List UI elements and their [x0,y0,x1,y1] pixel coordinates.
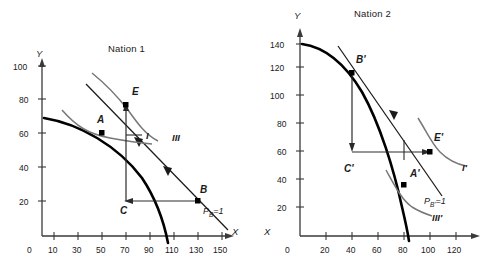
y-axis-arrow-2 [297,28,303,37]
point-label-A: A [97,114,104,125]
x-tick-label-90: 90 [144,245,153,255]
point-label-E-prime: E' [434,132,443,143]
x2-tick-label-20: 20 [320,245,329,255]
x2-tick-label-100: 100 [421,245,435,255]
trade-arrow-horizontal-head [124,198,133,204]
curve-label-III: III [172,132,180,143]
y-tick-label-20: 20 [19,197,28,207]
y-tick-label-60: 60 [19,129,28,139]
y2-tick-label-80: 80 [277,119,286,129]
x-tick-label-0: 0 [27,245,32,255]
y-tick-label-40: 40 [19,163,28,173]
panel-nation-1: Nation 1 [0,0,246,269]
x2-tick-label-120: 120 [447,245,461,255]
x-tick-label-110: 110 [165,245,179,255]
x-tick-label-70: 70 [120,245,129,255]
y-tick-label-80: 80 [19,95,28,105]
point-marker-A-prime [401,182,407,188]
y2-tick-label-140: 140 [270,40,284,50]
point-label-C: C [120,205,127,216]
curve-label-I: I [146,130,149,141]
x-axis-arrow-2 [471,233,480,239]
nation-1-plot [0,0,246,269]
y2-tick-label-40: 40 [277,175,286,185]
y2-tick-label-100: 100 [270,91,284,101]
point-label-C-prime: C' [344,163,354,174]
point-marker-E [123,102,129,108]
y-axis-title-nation-2: Y [294,10,300,21]
point-label-B: B [200,184,207,195]
price-label-nation-1: PB=1 [203,206,224,218]
price2-label-eq: =1 [436,196,446,206]
indifference-curve-I-prime [386,170,432,216]
x-tick-label-50: 50 [96,245,105,255]
y-axis-title-nation-1: Y [36,48,42,59]
y-tick-label-100: 100 [13,62,27,72]
ppf-curve-nation-2 [302,44,409,241]
point-marker-E-prime [427,149,433,155]
y2-tick-label-20: 20 [277,203,286,213]
y2-tick-label-60: 60 [277,147,286,157]
curve-label-I-prime: I' [462,162,467,173]
x-tick-label-150: 150 [213,245,227,255]
x2-tick-label-40: 40 [346,245,355,255]
y2-tick-label-120: 120 [270,63,284,73]
point-label-A-prime: A' [410,168,420,179]
x-axis-title-nation-2: X [264,226,270,237]
trade-arrow-vertical-head-2 [349,143,355,152]
point-marker-B [195,198,201,204]
price-label-nation-2: PB'=1 [424,196,446,208]
panel-nation-2: Nation 2 [246,0,492,269]
point-marker-A [99,130,105,136]
price-line-arrow-2 [389,110,398,120]
x-axis-title-nation-1: X [232,226,238,237]
point-label-B-prime: B' [356,54,366,65]
x-tick-label-30: 30 [72,245,81,255]
point-label-E: E [132,86,139,97]
curve-label-III-prime: III' [432,212,442,223]
figure-root: Nation 1 [0,0,492,269]
price-label-eq: =1 [213,206,223,216]
x2-tick-label-0: 0 [285,245,290,255]
x-tick-label-130: 130 [189,245,203,255]
x2-tick-label-80: 80 [398,245,407,255]
point-marker-B-prime [349,70,355,76]
x2-tick-label-60: 60 [372,245,381,255]
x-tick-label-10: 10 [48,245,57,255]
